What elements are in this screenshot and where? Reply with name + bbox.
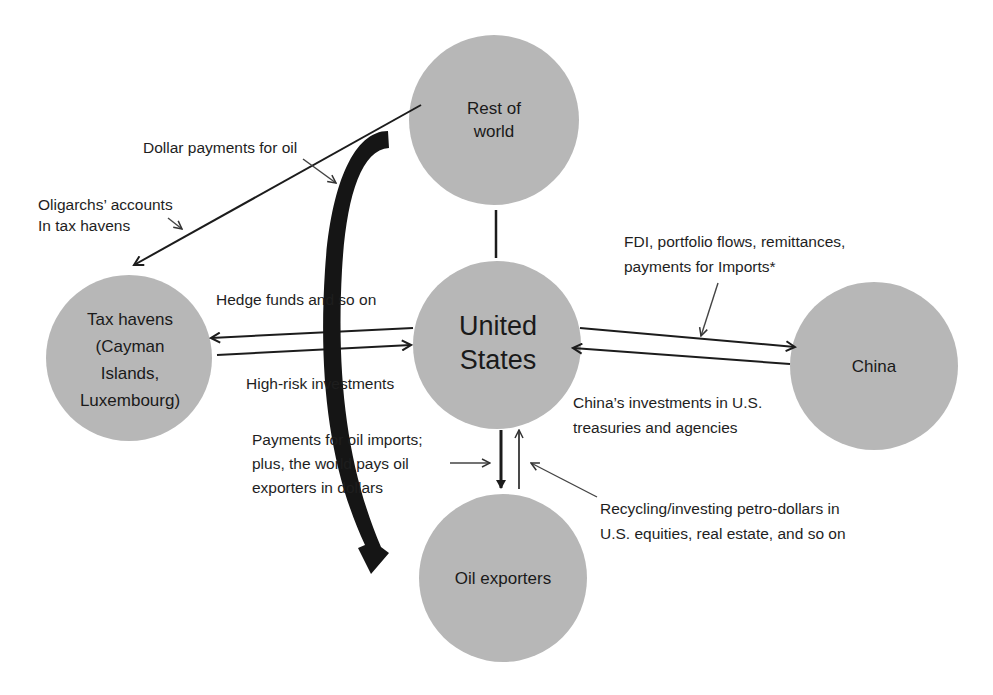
dollar-payments-label: Dollar payments for oil [143,137,297,158]
fdi-label: FDI, portfolio flows, remittances, payme… [624,229,845,279]
hedge-funds-label: Hedge funds and so on [216,289,376,310]
oil-dollar-curved-arrow [323,131,389,574]
oligarchs-label: Oligarchs’ accounts In tax havens [38,194,173,236]
oil-payments-label: Payments for oil imports; plus, the worl… [252,428,423,500]
high-risk-label: High-risk investments [246,373,394,394]
china-investments-label: China’s investments in U.S. treasuries a… [573,390,762,440]
us-to-taxhavens-arrow [211,328,413,338]
recycling-pointer [531,463,597,497]
oil-exporters-label: Oil exporters [455,567,551,590]
united-states-label: United States [459,309,537,377]
taxhavens-to-us-arrow [217,345,411,355]
china-label: China [852,355,896,378]
tax-havens-label: Tax havens (Cayman Islands, Luxembourg) [80,306,180,414]
fdi-pointer [701,283,718,336]
rest-of-world-label: Rest of world [467,97,521,143]
us-to-china-arrow [580,328,795,347]
recycling-label: Recycling/investing petro-dollars in U.S… [600,496,846,546]
row-to-taxhavens-arrow [134,105,421,265]
china-to-us-arrow [573,348,790,364]
